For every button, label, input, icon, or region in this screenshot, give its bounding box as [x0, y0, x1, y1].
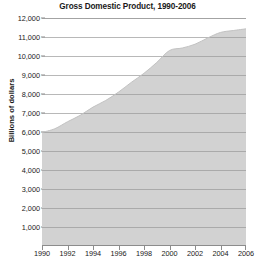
y-tick-label: 5,000 [8, 147, 40, 156]
y-tick-label: 7,000 [8, 109, 40, 118]
y-tick-label: 6,000 [8, 128, 40, 137]
y-tick-label: 10,000 [8, 52, 40, 61]
x-axis-tick-labels: 199019921994199619982000200220042006 [0, 249, 255, 263]
y-tick-label: 9,000 [8, 71, 40, 80]
plot-area [42, 18, 246, 246]
y-tick-label: 2,000 [8, 204, 40, 213]
chart-figure: Gross Domestic Product, 1990-2006 Billio… [0, 0, 255, 264]
y-tick-label: 8,000 [8, 90, 40, 99]
x-tick-label: 2006 [229, 249, 255, 258]
area-fill [42, 29, 246, 246]
chart-title: Gross Domestic Product, 1990-2006 [0, 2, 255, 11]
y-tick-label: 12,000 [8, 14, 40, 23]
y-axis-tick-labels: 12,00011,00010,0009,0008,0007,0006,0005,… [10, 18, 40, 246]
y-tick-label: 11,000 [8, 33, 40, 42]
area-chart-svg [42, 18, 246, 246]
y-tick-label: 1,000 [8, 223, 40, 232]
y-tick-label: 3,000 [8, 185, 40, 194]
y-tick-label: 4,000 [8, 166, 40, 175]
